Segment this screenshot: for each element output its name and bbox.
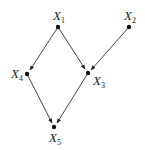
nodes bbox=[25, 25, 131, 129]
node-x2 bbox=[127, 25, 131, 29]
node-x1 bbox=[56, 25, 60, 29]
node-x3 bbox=[86, 71, 90, 75]
edge-x1-x3 bbox=[58, 27, 85, 69]
label-x2: X2 bbox=[123, 8, 136, 25]
label-x3: X3 bbox=[92, 73, 105, 90]
edge-x4-x5 bbox=[27, 74, 52, 123]
edge-x3-x5 bbox=[57, 73, 88, 123]
label-x4: X4 bbox=[10, 66, 23, 83]
node-x5 bbox=[52, 125, 56, 129]
edge-x1-x4 bbox=[30, 27, 58, 70]
edge-x2-x3 bbox=[91, 27, 129, 70]
node-x4 bbox=[25, 72, 29, 76]
label-x5: X5 bbox=[48, 130, 61, 147]
label-x1: X1 bbox=[52, 8, 65, 25]
edges bbox=[27, 27, 129, 123]
dag-diagram: X1 X2 X3 X4 X5 bbox=[0, 0, 145, 150]
